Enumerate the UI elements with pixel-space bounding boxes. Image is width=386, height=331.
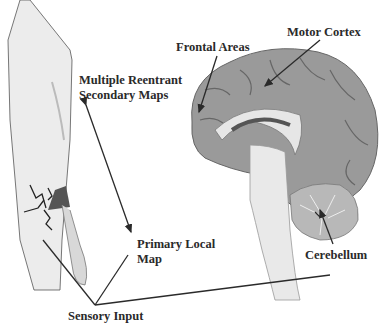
arm-icon: [8, 0, 87, 290]
label-cerebellum: Cerebellum: [305, 248, 367, 263]
label-sensory-input: Sensory Input: [68, 309, 143, 324]
label-primary-map-line2: Map: [137, 252, 162, 267]
label-frontal-areas: Frontal Areas: [176, 40, 250, 55]
label-secondary-maps-line1: Multiple Reentrant: [79, 73, 182, 88]
label-motor-cortex: Motor Cortex: [287, 25, 361, 40]
diagram: Frontal Areas Motor Cortex Multiple Reen…: [0, 0, 386, 331]
label-primary-map-line1: Primary Local: [137, 237, 215, 252]
label-secondary-maps-line2: Secondary Maps: [79, 88, 168, 103]
